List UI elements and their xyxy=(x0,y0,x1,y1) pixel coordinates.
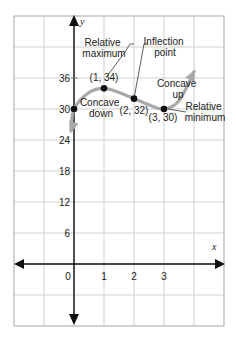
annotation-concave-up: Concave up xyxy=(157,78,199,100)
annotation-relative-minimum: Relative minimum xyxy=(185,101,226,123)
annotation-concave-down-line1: Concave xyxy=(80,97,120,108)
annotation-concave-down: Concave down xyxy=(80,97,122,119)
annotation-concave-up-line1: Concave xyxy=(157,78,197,89)
annotation-concave-up-line2: up xyxy=(172,89,184,100)
y-tick-label: 36 xyxy=(59,73,71,84)
annotation-relative-maximum-line2: maximum xyxy=(82,48,125,59)
x-tick-label: 0 xyxy=(65,271,71,282)
annotations: x y Relative maximum Inflection point Co… xyxy=(79,16,225,252)
annotation-relative-minimum-line1: Relative xyxy=(186,101,223,112)
x-axis-arrow-left-icon xyxy=(14,259,24,269)
y-tick-label: 24 xyxy=(59,135,71,146)
annotation-relative-minimum-line2: minimum xyxy=(185,112,226,123)
annotation-relative-maximum-line1: Relative xyxy=(85,37,122,48)
y-tick-label: 12 xyxy=(59,197,71,208)
axes xyxy=(14,15,225,325)
data-point xyxy=(101,85,108,92)
annotation-inflection-point-line1: Inflection xyxy=(144,36,184,47)
x-tick-label: 2 xyxy=(131,271,137,282)
y-axis-label: y xyxy=(79,16,85,27)
data-point xyxy=(71,106,78,113)
x-tick-label: 1 xyxy=(101,271,107,282)
leader-inflection-point xyxy=(134,44,148,99)
y-axis-arrow-down-icon xyxy=(69,314,79,325)
y-axis-arrow-up-icon xyxy=(69,15,79,26)
point-label-2-32: (2, 32) xyxy=(120,105,149,116)
point-label-3-30: (3, 30) xyxy=(149,112,178,123)
chart: 012361218243036 x y Relative maximum Inf… xyxy=(0,0,236,338)
y-tick-label: 6 xyxy=(64,228,70,239)
annotation-relative-maximum: Relative maximum xyxy=(82,37,125,59)
y-tick-label: 18 xyxy=(59,166,71,177)
x-axis-label: x xyxy=(211,241,217,252)
y-tick-label: 30 xyxy=(59,104,71,115)
annotation-concave-down-line2: down xyxy=(89,108,113,119)
annotation-inflection-point-line2: point xyxy=(154,47,176,58)
data-point xyxy=(131,95,138,102)
x-tick-label: 3 xyxy=(161,271,167,282)
point-label-1-34: (1, 34) xyxy=(90,72,119,83)
grid xyxy=(14,16,224,326)
